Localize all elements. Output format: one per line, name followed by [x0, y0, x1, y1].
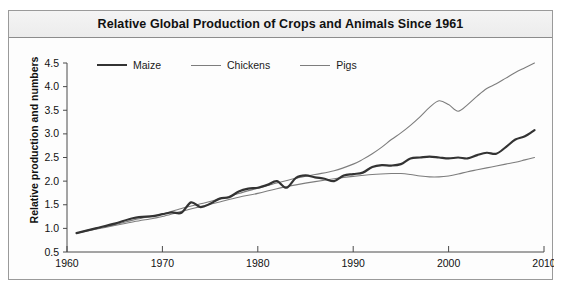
series-layer [77, 63, 535, 233]
legend-label-pigs: Pigs [336, 59, 356, 71]
chart-title-band: Relative Global Production of Crops and … [9, 11, 552, 38]
legend-swatch-chickens [191, 65, 221, 66]
series-line-pigs [77, 158, 535, 234]
svg-text:2.5: 2.5 [44, 151, 59, 163]
svg-text:4.5: 4.5 [44, 57, 59, 69]
tick-label-layer: 0.51.01.52.02.53.03.54.04.51960197019801… [44, 57, 554, 269]
svg-text:0.5: 0.5 [44, 246, 59, 258]
svg-text:1970: 1970 [151, 257, 175, 269]
page-title: Relative Global Production of Crops and … [98, 17, 464, 31]
legend-label-chickens: Chickens [227, 59, 270, 71]
svg-text:4.0: 4.0 [44, 80, 59, 92]
legend-swatch-pigs [300, 65, 330, 66]
svg-text:1980: 1980 [246, 257, 270, 269]
figure-caption-strip [8, 281, 553, 289]
series-line-maize [77, 130, 535, 233]
legend-swatch-maize [97, 64, 127, 66]
svg-text:3.0: 3.0 [44, 127, 59, 139]
legend-item-maize[interactable]: Maize [97, 59, 161, 71]
legend-item-pigs[interactable]: Pigs [300, 59, 356, 71]
chart-canvas: 0.51.01.52.02.53.03.54.04.51960197019801… [9, 38, 554, 280]
svg-text:3.5: 3.5 [44, 104, 59, 116]
legend-label-maize: Maize [133, 59, 161, 71]
svg-text:2.0: 2.0 [44, 175, 59, 187]
series-line-chickens [77, 63, 535, 233]
chart-legend: Maize Chickens Pigs [97, 59, 357, 71]
svg-text:2010: 2010 [532, 257, 554, 269]
svg-text:1960: 1960 [55, 257, 79, 269]
svg-text:1990: 1990 [342, 257, 366, 269]
svg-text:1.5: 1.5 [44, 198, 59, 210]
svg-text:1.0: 1.0 [44, 222, 59, 234]
legend-item-chickens[interactable]: Chickens [191, 59, 270, 71]
chart-figure: Relative Global Production of Crops and … [8, 10, 553, 280]
plot-region: Relative production and numbers Maize Ch… [9, 38, 554, 280]
svg-text:2000: 2000 [437, 257, 461, 269]
